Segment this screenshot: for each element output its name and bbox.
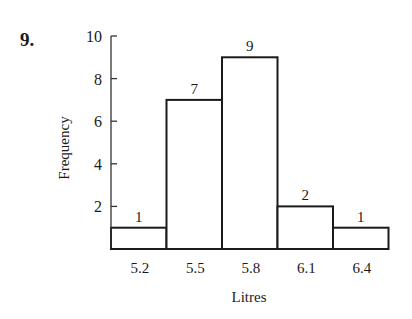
bar-5.2 [111,228,167,249]
data-label: 1 [357,209,365,225]
y-tick-label: 2 [94,198,102,215]
histogram-chart: 9. 17921 246810 5.25.55.86.16.4 Frequenc… [0,0,412,319]
bar-6.1 [278,206,334,249]
y-tick-label: 6 [94,113,102,130]
data-label: 2 [302,187,310,203]
bar-5.5 [167,100,223,249]
y-tick-label: 8 [94,71,102,88]
y-tick-label: 10 [86,28,102,45]
x-tick-label: 5.5 [186,260,205,276]
bar-6.4 [333,228,389,249]
data-label: 7 [191,81,199,97]
bars-group: 17921 [111,38,389,249]
x-tick-label: 6.4 [352,260,371,276]
x-axis-label: Litres [232,289,267,305]
y-axis: 246810 [86,28,117,249]
x-tick-label: 5.8 [241,260,260,276]
bar-5.8 [222,57,278,249]
y-tick-label: 4 [94,156,102,173]
x-tick-label: 5.2 [130,260,149,276]
data-label: 9 [246,38,254,54]
data-label: 1 [135,209,143,225]
y-axis-label: Frequency [56,116,72,180]
x-axis: 5.25.55.86.16.4 [111,249,389,276]
x-tick-label: 6.1 [297,260,316,276]
question-number: 9. [20,29,34,50]
